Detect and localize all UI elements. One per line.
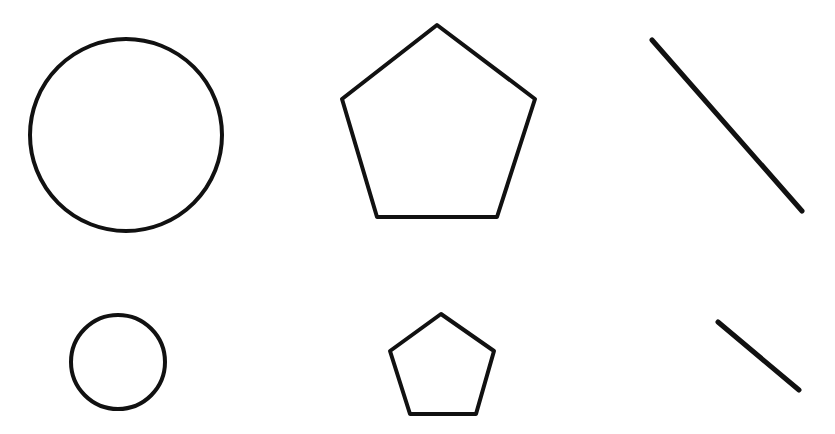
shapes-canvas	[0, 0, 835, 434]
